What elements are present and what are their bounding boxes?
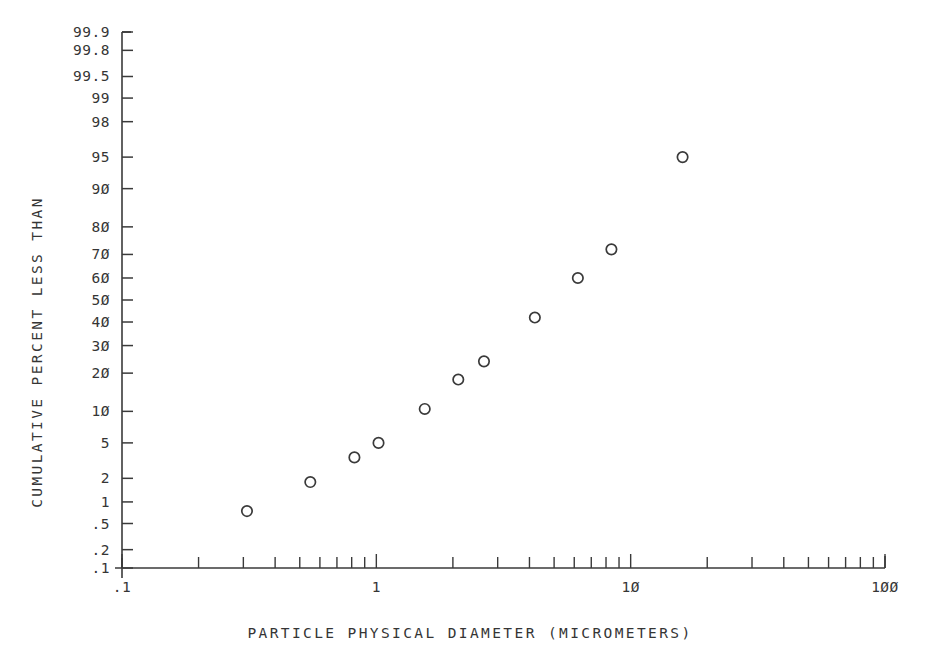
data-point-marker bbox=[573, 273, 583, 283]
page-header-ghost bbox=[620, 0, 920, 9]
y-axis-tick-labels: 99.999.899.59998959Ø8Ø7Ø6Ø5Ø4Ø3Ø2Ø1Ø521.… bbox=[73, 24, 110, 576]
chart-figure: 99.999.899.59998959Ø8Ø7Ø6Ø5Ø4Ø3Ø2Ø1Ø521.… bbox=[0, 0, 930, 648]
y-tick-label: 2 bbox=[101, 470, 110, 486]
y-tick-label: 99.9 bbox=[73, 24, 110, 40]
data-point-marker bbox=[606, 244, 616, 254]
data-point-marker bbox=[420, 404, 430, 414]
y-tick-label: 3Ø bbox=[92, 338, 110, 354]
y-tick-label: 2Ø bbox=[92, 365, 110, 381]
x-tick-label: 1ØØ bbox=[871, 579, 899, 595]
data-point-marker bbox=[530, 312, 540, 322]
y-tick-label: 99.5 bbox=[73, 68, 110, 84]
data-point-marker bbox=[373, 438, 383, 448]
data-point-marker bbox=[479, 356, 489, 366]
x-axis-title: PARTICLE PHYSICAL DIAMETER (MICROMETERS) bbox=[247, 625, 692, 641]
y-axis-title: CUMULATIVE PERCENT LESS THAN bbox=[29, 196, 45, 508]
x-axis-ticks bbox=[122, 554, 885, 568]
x-axis-tick-labels: .111Ø1ØØ bbox=[113, 579, 899, 595]
y-tick-label: 6Ø bbox=[92, 270, 110, 286]
data-point-marker bbox=[349, 452, 359, 462]
y-axis-ticks bbox=[122, 32, 133, 568]
x-tick-label: .1 bbox=[113, 579, 131, 595]
data-point-marker bbox=[677, 152, 687, 162]
axis-frame bbox=[115, 32, 885, 578]
x-tick-label: 1 bbox=[372, 579, 381, 595]
y-tick-label: .1 bbox=[92, 560, 110, 576]
y-tick-label: 9Ø bbox=[92, 181, 110, 197]
y-tick-label: 7Ø bbox=[92, 246, 110, 262]
y-tick-label: 95 bbox=[92, 149, 110, 165]
y-tick-label: .2 bbox=[92, 542, 110, 558]
y-tick-label: 5 bbox=[101, 435, 110, 451]
x-tick-label: 1Ø bbox=[621, 579, 639, 595]
data-point-series bbox=[242, 152, 688, 516]
probability-plot-canvas: 99.999.899.59998959Ø8Ø7Ø6Ø5Ø4Ø3Ø2Ø1Ø521.… bbox=[0, 0, 930, 648]
data-point-marker bbox=[242, 506, 252, 516]
y-tick-label: 1Ø bbox=[92, 403, 110, 419]
y-tick-label: 1 bbox=[101, 494, 110, 510]
y-tick-label: 99.8 bbox=[73, 42, 110, 58]
y-tick-label: 5Ø bbox=[92, 292, 110, 308]
y-tick-label: .5 bbox=[92, 516, 110, 532]
y-tick-label: 8Ø bbox=[92, 219, 110, 235]
y-tick-label: 98 bbox=[92, 114, 110, 130]
y-tick-label: 4Ø bbox=[92, 314, 110, 330]
data-point-marker bbox=[305, 477, 315, 487]
y-tick-label: 99 bbox=[92, 90, 110, 106]
data-point-marker bbox=[453, 374, 463, 384]
